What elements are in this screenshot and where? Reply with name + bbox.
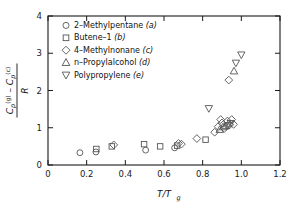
legend-tag: (c): [143, 46, 154, 55]
legend-tag: (b): [114, 33, 125, 42]
x-axis-title-subscript: g: [177, 194, 181, 202]
x-tick-label: 0.6: [157, 169, 171, 179]
y-axis-title-numerator: Cp(g) – Cp(c): [4, 67, 17, 115]
data-point: [232, 60, 239, 67]
x-tick-label: 0.4: [119, 169, 133, 179]
legend-item-2: Butene–1 (b): [63, 33, 125, 42]
legend-marker-square: [63, 35, 69, 41]
x-tick-label: 1.0: [235, 169, 249, 179]
legend-tag: (e): [133, 71, 144, 80]
data-point: [157, 144, 162, 149]
x-axis-title-text: T/T: [157, 189, 173, 199]
x-tick-label: 0.8: [196, 169, 210, 179]
data-point: [225, 76, 233, 84]
data-point: [230, 67, 237, 74]
y-tick-label: 2: [37, 86, 42, 96]
x-axis-title: T/Tg: [157, 189, 181, 202]
legend-tag: (a): [146, 21, 157, 30]
x-tick-label: 0.2: [80, 169, 94, 179]
x-tick-label: 0: [45, 169, 50, 179]
data-point: [203, 137, 208, 142]
legend-item-1: 2–Methylpentane (a): [63, 21, 157, 30]
legend-marker-circle: [63, 22, 69, 28]
data-point: [193, 135, 201, 143]
legend-item-3: 4–Methylnonane (c): [62, 46, 153, 55]
data-point: [77, 150, 83, 156]
y-axis-title: Cp(g) – Cp(c)R: [4, 64, 30, 118]
series-c: [110, 76, 238, 149]
x-tick-label: 1.2: [273, 169, 287, 179]
legend-label: n–Propylalcohol (d): [74, 58, 150, 67]
data-point: [110, 141, 118, 149]
y-tick-label: 0: [37, 160, 42, 170]
y-tick-label: 1: [37, 123, 42, 133]
chart-container: 00.20.40.60.81.01.2012342–Methylpentane …: [0, 0, 297, 209]
y-tick-label: 3: [37, 48, 42, 58]
legend-label: 2–Methylpentane (a): [74, 21, 157, 30]
legend-label: 4–Methylnonane (c): [74, 46, 153, 55]
data-point: [205, 106, 212, 113]
legend-marker-triangle-up: [62, 59, 70, 66]
data-point: [143, 147, 149, 153]
data-point: [217, 116, 225, 124]
y-axis-title-denominator: R: [20, 87, 30, 93]
data-point: [141, 141, 146, 146]
legend-item-4: n–Propylalcohol (d): [62, 58, 150, 67]
y-tick-label: 4: [37, 11, 42, 21]
legend-tag: (d): [139, 58, 150, 67]
legend-item-5: Polypropylene (e): [62, 71, 144, 80]
legend-label: Polypropylene (e): [74, 71, 144, 80]
series-e: [205, 52, 245, 129]
data-point: [238, 52, 245, 59]
scatter-plot: 00.20.40.60.81.01.2012342–Methylpentane …: [0, 0, 297, 209]
legend-marker-diamond: [62, 46, 70, 54]
legend-label: Butene–1 (b): [74, 33, 126, 42]
legend-marker-triangle-down: [62, 72, 70, 79]
